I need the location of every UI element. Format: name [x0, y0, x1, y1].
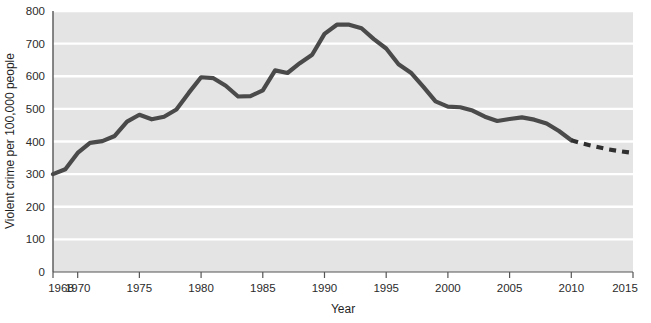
x-tick-label-1970: 1970: [65, 282, 91, 294]
x-axis-title: Year: [331, 302, 355, 316]
y-tick-label-0: 0: [39, 266, 45, 278]
y-tick-label-300: 300: [26, 168, 45, 180]
x-tick-label-1990: 1990: [312, 282, 338, 294]
x-tick-label-1975: 1975: [127, 282, 153, 294]
y-tick-label-100: 100: [26, 233, 45, 245]
chart-canvas: 0100200300400500600700800 19681970197519…: [0, 0, 651, 323]
x-tick-label-2015: 2015: [612, 282, 638, 294]
x-tick-label-2005: 2005: [497, 282, 523, 294]
y-tick-label-200: 200: [26, 201, 45, 213]
x-tick-label-2000: 2000: [435, 282, 461, 294]
x-tick-label-1995: 1995: [373, 282, 399, 294]
y-tick-label-400: 400: [26, 136, 45, 148]
x-tick-label-1980: 1980: [188, 282, 214, 294]
y-axis-tick-labels: 0100200300400500600700800: [26, 5, 45, 278]
y-axis-title: Violent crime per 100,000 people: [3, 53, 17, 229]
x-tick-label-2010: 2010: [559, 282, 585, 294]
y-tick-label-600: 600: [26, 70, 45, 82]
y-tick-label-500: 500: [26, 103, 45, 115]
violent-crime-line-chart: 0100200300400500600700800 19681970197519…: [0, 0, 651, 323]
y-tick-label-800: 800: [26, 5, 45, 17]
x-tick-label-1985: 1985: [250, 282, 276, 294]
y-tick-label-700: 700: [26, 38, 45, 50]
